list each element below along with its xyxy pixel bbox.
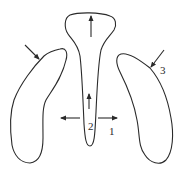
label-2: 2: [88, 120, 94, 132]
left-lobe-shape: [11, 49, 67, 163]
label-1: 1: [109, 125, 115, 137]
diagram-canvas: 2 1 3: [0, 0, 179, 178]
diagram-svg: 2 1 3: [0, 0, 179, 178]
left-lobe-arrow-icon: [25, 45, 39, 59]
label-3: 3: [160, 64, 166, 76]
